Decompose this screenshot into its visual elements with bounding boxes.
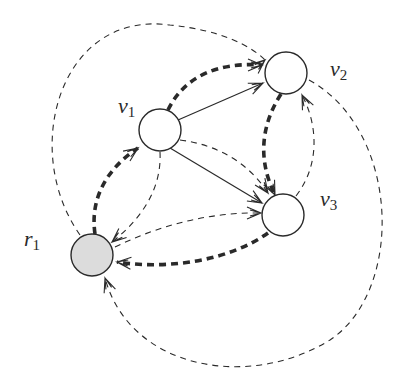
edge-v2-to-v3	[264, 94, 281, 195]
graph-diagram: r1v1v2v3	[0, 0, 415, 382]
node-label-subscript: 1	[33, 237, 41, 253]
node-label-text: v	[330, 56, 340, 81]
edge-v1-to-v3	[170, 148, 262, 203]
node-r1	[71, 234, 113, 276]
edge-v3-to-v2	[296, 95, 314, 196]
node-label-v3: v3	[320, 188, 337, 213]
node-label-v2: v2	[330, 58, 347, 83]
node-label-subscript: 2	[340, 67, 348, 83]
node-label-subscript: 3	[330, 197, 338, 213]
node-v2	[265, 52, 307, 94]
edge-v1-to-v2	[178, 83, 263, 120]
node-v3	[262, 194, 304, 236]
graph-canvas	[0, 0, 415, 382]
edge-v1-to-v3	[180, 140, 268, 193]
node-label-text: v	[118, 93, 128, 118]
node-label-text: v	[320, 186, 330, 211]
edge-v3-to-r1	[117, 233, 268, 265]
edge-v1-to-v2	[168, 65, 262, 110]
node-v1	[139, 109, 181, 151]
node-label-text: r	[24, 226, 33, 251]
node-label-subscript: 1	[128, 104, 136, 120]
node-label-r1: r1	[24, 228, 40, 253]
nodes-layer	[71, 52, 307, 276]
node-label-v1: v1	[118, 95, 135, 120]
edge-r1-to-v1	[94, 148, 138, 234]
